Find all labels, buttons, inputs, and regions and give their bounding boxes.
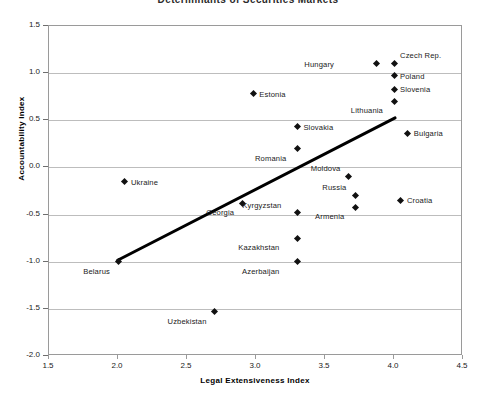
y-tick-label: 1.0 <box>4 67 40 76</box>
x-tick-label: 2.0 <box>97 361 137 370</box>
plot-area: Czech Rep.HungaryPolandSloveniaLithuania… <box>48 25 462 355</box>
y-tick-label: 1.5 <box>4 20 40 29</box>
chart-title: Determinants of Securities Markets <box>0 0 496 5</box>
gridline <box>49 215 461 216</box>
y-tick-label: 0.0 <box>4 161 40 170</box>
data-point-label: Estonia <box>259 90 285 99</box>
x-tick-label: 1.5 <box>28 361 68 370</box>
x-tick-label: 4.0 <box>373 361 413 370</box>
data-point-marker <box>352 192 359 199</box>
data-point-label: Kyrgyzstan <box>242 201 281 210</box>
data-point-label: Hungary <box>304 60 334 69</box>
data-point-marker <box>114 258 121 265</box>
y-tick-label: -1.0 <box>4 256 40 265</box>
x-tick-label: 3.5 <box>304 361 344 370</box>
data-point-marker <box>390 72 397 79</box>
data-point-label: Bulgaria <box>414 129 443 138</box>
data-point-label: Armenia <box>315 212 344 221</box>
data-point-label: Poland <box>400 72 425 81</box>
data-point-label: Uzbekistan <box>168 317 207 326</box>
x-tick-label: 4.5 <box>442 361 482 370</box>
data-point-label: Czech Rep. <box>400 51 441 60</box>
y-tick-label: -1.5 <box>4 303 40 312</box>
data-point-label: Slovenia <box>400 85 430 94</box>
data-point-marker <box>390 98 397 105</box>
data-point-marker <box>390 60 397 67</box>
data-point-marker <box>373 60 380 67</box>
data-point-label: Kazakhstan <box>238 243 279 252</box>
data-point-marker <box>404 130 411 137</box>
data-point-label: Georgia <box>206 208 234 217</box>
data-point-label: Moldova <box>311 164 341 173</box>
data-point-label: Lithuania <box>351 106 383 115</box>
gridline <box>49 167 461 168</box>
data-point-marker <box>352 203 359 210</box>
gridline <box>49 262 461 263</box>
data-point-marker <box>294 235 301 242</box>
data-point-label: Croatia <box>407 196 433 205</box>
x-tick-label: 3.0 <box>235 361 275 370</box>
data-point-marker <box>294 123 301 130</box>
chart-figure: Determinants of Securities Markets Accou… <box>0 0 496 394</box>
y-tick-label: 0.5 <box>4 114 40 123</box>
data-point-label: Ukraine <box>131 178 158 187</box>
data-point-label: Belarus <box>83 267 110 276</box>
data-point-marker <box>294 258 301 265</box>
gridline <box>49 309 461 310</box>
y-tick-label: -2.0 <box>4 350 40 359</box>
data-point-label: Russia <box>322 183 346 192</box>
data-point-label: Slovakia <box>303 123 333 132</box>
x-tick-mark <box>324 355 325 359</box>
x-tick-mark <box>48 355 49 359</box>
data-point-marker <box>121 178 128 185</box>
data-point-marker <box>397 197 404 204</box>
x-tick-label: 2.5 <box>166 361 206 370</box>
y-tick-label: -0.5 <box>4 209 40 218</box>
x-tick-mark <box>393 355 394 359</box>
data-point-marker <box>250 90 257 97</box>
x-tick-mark <box>255 355 256 359</box>
data-point-label: Romania <box>255 154 286 163</box>
data-point-marker <box>294 145 301 152</box>
data-point-marker <box>390 86 397 93</box>
x-tick-mark <box>462 355 463 359</box>
x-axis-title: Legal Extensiveness Index <box>48 376 462 385</box>
data-point-label: Azerbaijan <box>242 267 279 276</box>
x-tick-mark <box>117 355 118 359</box>
data-point-marker <box>345 173 352 180</box>
x-tick-mark <box>186 355 187 359</box>
y-axis-title: Accountability Index <box>17 74 26 204</box>
gridline <box>49 120 461 121</box>
